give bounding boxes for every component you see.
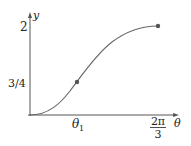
point-end xyxy=(156,24,160,28)
curve xyxy=(30,26,158,115)
y-axis-label: y xyxy=(32,9,40,22)
y-tick-3-4: 3/4 xyxy=(8,77,26,90)
y-axis-arrow-icon xyxy=(28,12,32,18)
x-axis-label: θ xyxy=(174,117,181,130)
x-tick-2pi-den: 3 xyxy=(155,128,162,141)
x-tick-theta1-sub: 1 xyxy=(79,124,84,133)
chart-canvas: y 2 3/4 θ 1 2π 3 θ xyxy=(0,0,191,146)
x-tick-2pi-num: 2π xyxy=(151,115,165,128)
y-tick-2: 2 xyxy=(20,20,28,34)
point-theta1 xyxy=(75,80,79,84)
